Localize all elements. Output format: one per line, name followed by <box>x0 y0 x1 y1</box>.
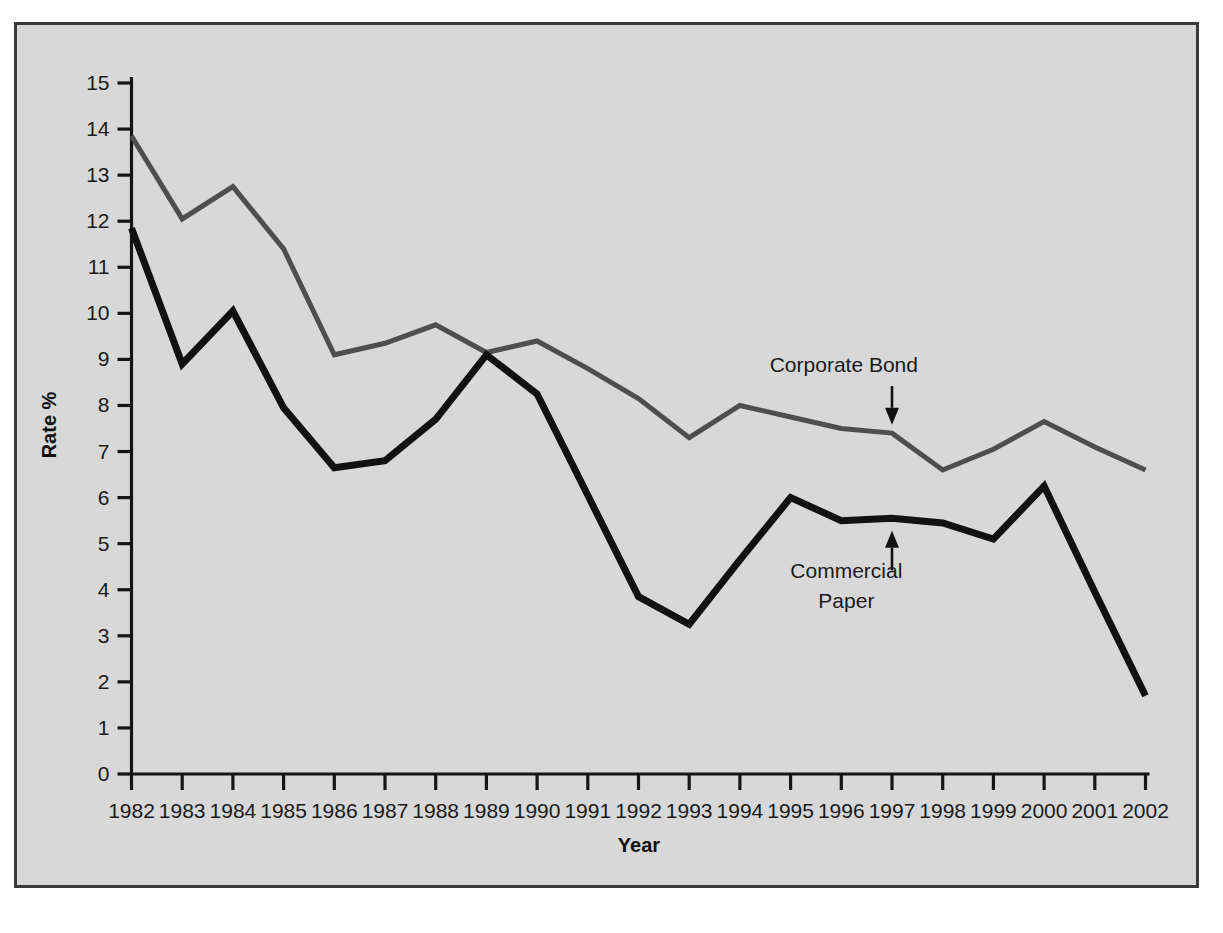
figure-root: 0123456789101112131415 19821983198419851… <box>0 0 1223 933</box>
chart-panel <box>14 22 1199 888</box>
